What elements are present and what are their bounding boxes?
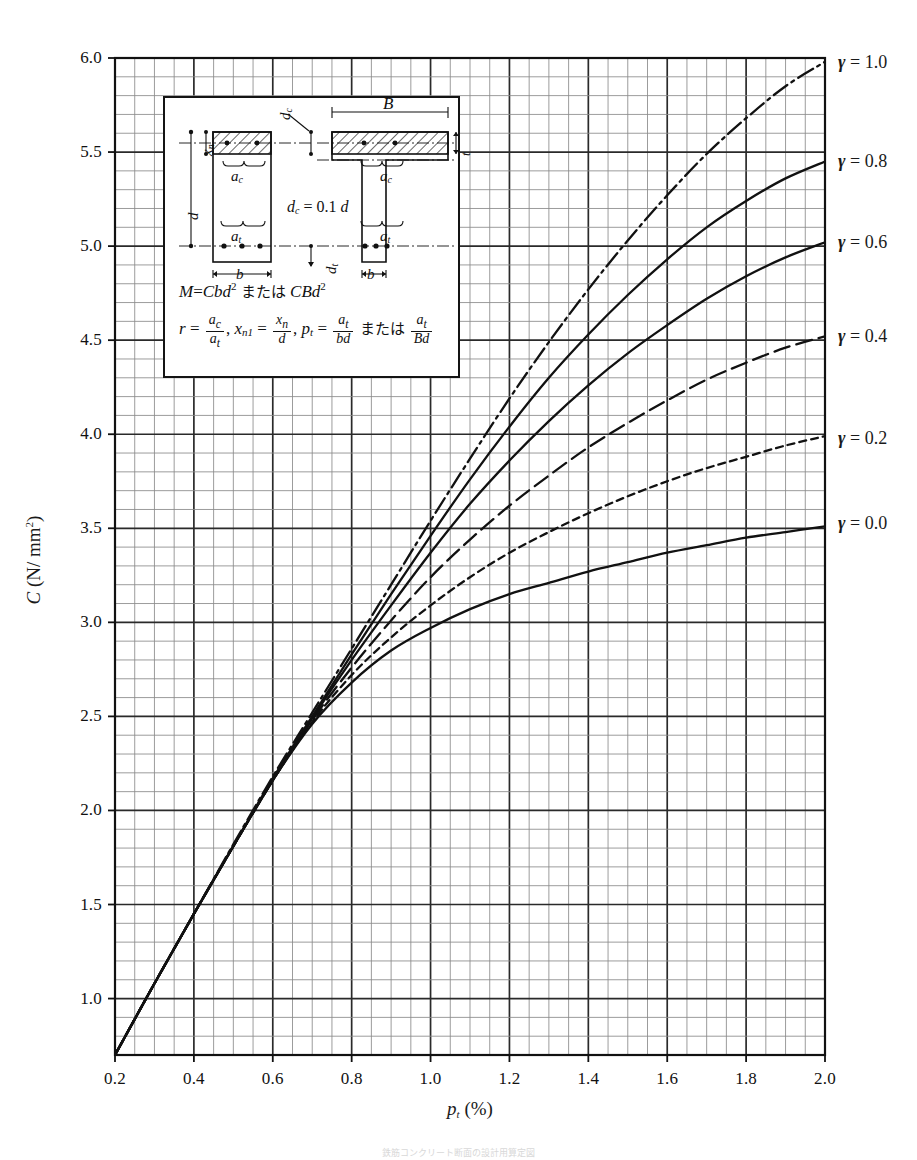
dim-d-endpoint: [189, 130, 193, 134]
y-tick-label: 6.0: [58, 48, 102, 68]
gamma-symbol: γ: [838, 427, 846, 447]
label-ac-left: ac: [231, 168, 243, 185]
label-b-right: b: [367, 266, 375, 283]
y-axis-title-symbol: C: [23, 592, 44, 605]
figure-root: 0.20.40.60.81.01.21.41.61.82.0 1.01.52.0…: [0, 0, 917, 1160]
brace-at-right: [361, 221, 403, 226]
x-axis-title: pt (%): [447, 1098, 493, 1120]
x-axis-title-unit: (%): [464, 1098, 492, 1119]
y-tick-label: 5.0: [58, 236, 102, 256]
y-tick-label: 4.5: [58, 330, 102, 350]
gamma-label: γ = 0.2: [838, 427, 887, 448]
y-tick-label: 1.5: [58, 895, 102, 915]
label-at-right: at: [380, 228, 390, 245]
label-dt: dt: [323, 264, 340, 274]
dim-dt-arrow: [308, 262, 314, 267]
x-tick-label: 0.6: [262, 1069, 284, 1089]
gamma-value: = 0.6: [846, 232, 888, 252]
label-ac-right: ac: [380, 168, 392, 185]
gamma-value: = 0.2: [846, 427, 888, 447]
x-axis-title-subscript: t: [457, 1108, 460, 1120]
dim-xn-endpoint: [204, 130, 208, 134]
label-dc: dc: [277, 108, 294, 120]
t-beam-compression-zone: [332, 132, 448, 154]
y-axis-title-unit: (N/ mm: [23, 527, 44, 587]
gamma-label: γ = 1.0: [838, 51, 887, 72]
x-axis-title-symbol: p: [447, 1098, 457, 1119]
y-tick-label: 4.0: [58, 424, 102, 444]
y-axis-title-close: ): [23, 516, 44, 522]
fraction-xn1: xn d: [273, 313, 291, 347]
gamma-value: = 1.0: [846, 51, 888, 71]
gamma-label: γ = 0.0: [838, 512, 887, 533]
dim-dc-endpoint: [309, 152, 313, 156]
x-tick-label: 1.6: [656, 1069, 678, 1089]
gamma-label: γ = 0.8: [838, 151, 887, 172]
x-tick-label: 1.8: [735, 1069, 757, 1089]
gamma-symbol: γ: [838, 232, 846, 252]
label-at-left: at: [231, 228, 241, 245]
gamma-symbol: γ: [838, 512, 846, 532]
x-tick-label: 0.8: [341, 1069, 363, 1089]
gamma-value: = 0.0: [846, 512, 888, 532]
y-tick-label: 2.5: [58, 706, 102, 726]
y-axis-title: C (N/ mm2): [23, 516, 45, 605]
fraction-r: ac at: [206, 313, 224, 350]
y-tick-label: 1.0: [58, 989, 102, 1009]
figure-caption: 鉄筋コンクリート断面の設計用算定図: [382, 1146, 535, 1159]
dim-dt-endpoint: [309, 244, 313, 248]
label-B: B: [383, 94, 393, 114]
x-tick-label: 2.0: [814, 1069, 836, 1089]
y-tick-label: 2.0: [58, 800, 102, 820]
equation-moment: M=Cbd2 または CBd2: [179, 280, 326, 302]
dim-d-endpoint: [189, 244, 193, 248]
note-dc-equals: dc = 0.1 d: [287, 198, 348, 216]
gamma-value: = 0.4: [846, 326, 888, 346]
y-tick-label: 3.5: [58, 518, 102, 538]
gamma-value: = 0.8: [846, 151, 888, 171]
label-xn: xn: [199, 144, 216, 156]
fraction-pt-rect: at bd: [333, 313, 353, 347]
fraction-pt-tee: at Bd: [411, 313, 433, 347]
equation-ratios: r = ac at , xn1 = xn d , pt = at bd または …: [179, 313, 434, 350]
y-tick-label: 3.0: [58, 612, 102, 632]
y-axis-title-exponent: 2: [23, 522, 35, 528]
label-t: t: [458, 152, 474, 156]
y-tick-label: 5.5: [58, 142, 102, 162]
gamma-label: γ = 0.4: [838, 326, 887, 347]
gamma-symbol: γ: [838, 326, 846, 346]
brace-at-left: [221, 221, 265, 226]
brace-ac-right: [361, 161, 403, 166]
brace-ac-left: [223, 161, 265, 166]
gamma-symbol: γ: [838, 151, 846, 171]
x-tick-label: 1.4: [577, 1069, 599, 1089]
x-tick-label: 1.2: [499, 1069, 521, 1089]
label-d: d: [185, 213, 202, 221]
x-tick-label: 0.2: [104, 1069, 126, 1089]
gamma-label: γ = 0.6: [838, 232, 887, 253]
x-tick-label: 0.4: [183, 1069, 205, 1089]
x-tick-label: 1.0: [420, 1069, 442, 1089]
dim-dc-endpoint: [309, 130, 313, 134]
gamma-symbol: γ: [838, 51, 846, 71]
inset-panel: d xn ac at b ac at b B dc dt: [163, 96, 460, 378]
